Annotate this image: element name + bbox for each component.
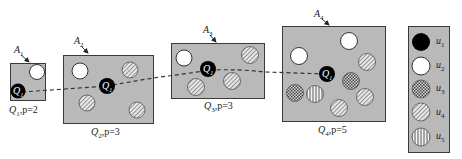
object-u4 [357,89,374,106]
object-u5 [307,86,324,103]
caption-q3: Q3,p=3 [204,100,233,114]
region-label-a4: A4 [314,8,324,22]
object-u4 [359,54,376,71]
region-label-a2: A2 [74,35,84,49]
legend-label-u3: u3 [436,82,445,96]
object-u2 [291,48,308,65]
object-u4 [79,95,95,111]
object-u4 [122,62,138,78]
caption-q2: Q2,p=3 [91,126,120,140]
legend-label-u5: u5 [436,130,445,144]
legend-swatch-u4 [412,103,430,121]
query-label: Q1 [322,68,332,81]
legend-label-u2: u2 [436,59,445,73]
region-label-a1: A1 [14,44,24,58]
query-label: Q1 [13,85,23,98]
query-label: Q1 [102,80,112,93]
region-label-a3: A3 [203,24,213,38]
legend-swatch-u5 [412,128,430,146]
object-u2 [30,65,45,80]
object-u4 [242,47,259,64]
object-u4 [331,100,348,117]
object-u3 [343,73,360,90]
object-u4 [224,73,241,90]
query-trajectory [22,70,326,92]
object-u2 [176,50,192,66]
caption-q1: Q1,p=2 [9,104,38,118]
legend-label-u1: u1 [436,35,445,49]
object-u2 [341,33,358,50]
legend-label-u4: u4 [436,106,445,120]
caption-q4: Q4,p=5 [318,124,347,138]
query-label: Q1 [203,63,213,76]
object-u2 [72,63,88,79]
object-u4 [129,102,145,118]
object-u4 [188,79,205,96]
legend-swatch-u2 [412,57,430,75]
legend-swatch-u3 [412,80,430,98]
diagram-graphics [0,0,462,159]
object-u3 [287,85,304,102]
legend-swatch-u1 [412,33,430,51]
